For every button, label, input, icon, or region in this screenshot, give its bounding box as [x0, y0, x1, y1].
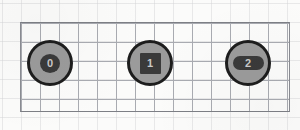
diagram-canvas: 0 1 2	[0, 0, 300, 130]
node-0-label: 0	[47, 58, 53, 69]
node-2-badge: 2	[233, 56, 264, 70]
node-0[interactable]: 0	[27, 40, 73, 86]
node-1[interactable]: 1	[127, 40, 173, 86]
node-2[interactable]: 2	[225, 40, 271, 86]
node-0-badge: 0	[40, 54, 60, 73]
node-1-label: 1	[147, 58, 153, 69]
node-2-label: 2	[245, 58, 251, 69]
node-1-badge: 1	[140, 53, 161, 74]
